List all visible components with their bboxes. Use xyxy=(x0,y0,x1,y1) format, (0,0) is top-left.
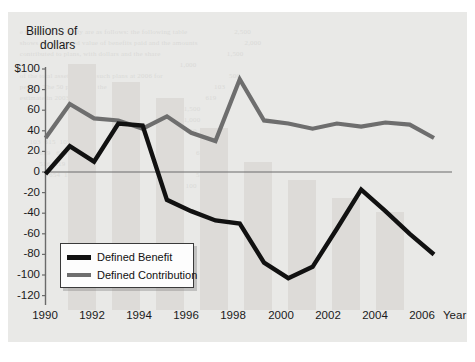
x-tick-label-2006: 2006 xyxy=(399,309,445,321)
chart-legend: Defined Benefit Defined Contribution xyxy=(60,243,194,288)
y-tick-label-7: -40 xyxy=(0,206,40,218)
x-tick-label-2000: 2000 xyxy=(258,309,304,321)
legend-swatch-defined-benefit xyxy=(67,255,91,260)
y-tick-label-9: -80 xyxy=(0,247,40,259)
y-tick-label-5: 0 xyxy=(0,165,40,177)
x-axis-title: Year xyxy=(443,309,466,321)
x-tick-label-1998: 1998 xyxy=(210,309,256,321)
x-tick-label-2004: 2004 xyxy=(352,309,398,321)
plot-area xyxy=(0,0,475,362)
legend-label-defined-benefit: Defined Benefit xyxy=(97,251,172,263)
y-tick-label-3: 40 xyxy=(0,124,40,136)
y-tick-label-10: -100 xyxy=(0,268,40,280)
y-tick-label-1: 80 xyxy=(0,83,40,95)
y-tick-label-4: 20 xyxy=(0,144,40,156)
legend-item-defined-benefit[interactable]: Defined Benefit xyxy=(67,248,193,266)
chart-figure: e results of our study are as follows: t… xyxy=(0,0,475,362)
x-tick-label-1990: 1990 xyxy=(22,309,68,321)
y-tick-label-8: -60 xyxy=(0,227,40,239)
legend-label-defined-contribution: Defined Contribution xyxy=(97,269,197,281)
y-tick-label-11: -120 xyxy=(0,289,40,301)
y-tick-label-2: 60 xyxy=(0,103,40,115)
x-tick-label-1992: 1992 xyxy=(69,309,115,321)
legend-swatch-defined-contribution xyxy=(67,273,91,277)
x-tick-label-1996: 1996 xyxy=(163,309,209,321)
x-tick-label-2002: 2002 xyxy=(305,309,351,321)
series-line-defined-contribution xyxy=(46,79,435,141)
y-tick-label-0: $100 xyxy=(0,62,40,74)
legend-item-defined-contribution[interactable]: Defined Contribution xyxy=(67,266,193,284)
y-tick-label-6: -20 xyxy=(0,186,40,198)
x-tick-label-1994: 1994 xyxy=(116,309,162,321)
